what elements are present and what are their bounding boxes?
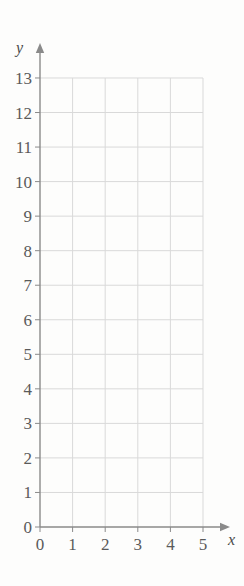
horizontal-gridlines [40, 78, 203, 492]
y-tick-label: 1 [2, 484, 32, 501]
x-axis-tick-marks [40, 527, 203, 532]
y-tick-label: 2 [2, 450, 32, 467]
y-tick-label: 10 [2, 174, 32, 191]
y-tick-label: 12 [2, 105, 32, 122]
plot-area [0, 0, 244, 586]
y-axis-tick-marks [35, 78, 40, 527]
x-tick-label: 3 [126, 536, 150, 553]
y-tick-label: 11 [2, 139, 32, 156]
y-axis-arrowhead [36, 43, 44, 53]
x-tick-label: 4 [158, 536, 182, 553]
x-tick-label: 0 [28, 536, 52, 553]
y-tick-label: 6 [2, 312, 32, 329]
y-tick-label: 8 [2, 243, 32, 260]
x-tick-label: 5 [191, 536, 215, 553]
y-tick-label: 3 [2, 415, 32, 432]
y-tick-label: 7 [2, 277, 32, 294]
x-tick-label: 1 [61, 536, 85, 553]
x-tick-label: 2 [93, 536, 117, 553]
y-tick-label: 13 [2, 70, 32, 87]
y-tick-label: 5 [2, 346, 32, 363]
y-axis-label: y [16, 40, 23, 56]
y-tick-label: 9 [2, 208, 32, 225]
y-tick-label: 0 [2, 519, 32, 536]
coordinate-grid-figure: 012345678910111213 012345 y x [0, 0, 244, 586]
vertical-gridlines [73, 78, 203, 527]
y-tick-label: 4 [2, 381, 32, 398]
x-axis-arrowhead [220, 523, 230, 531]
x-axis-label: x [228, 532, 235, 548]
